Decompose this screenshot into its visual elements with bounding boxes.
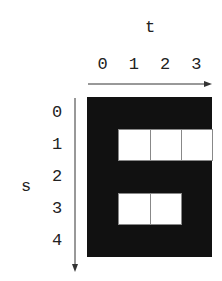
cell-s1-t3 <box>181 129 213 161</box>
grid <box>87 97 212 257</box>
t-axis-label: t <box>140 19 160 36</box>
cell-s1-t1 <box>118 129 150 161</box>
cell-s1-t2 <box>150 129 182 161</box>
cell-s3-t1 <box>118 193 150 225</box>
s-tick-0: 0 <box>47 104 67 121</box>
t-tick-2: 2 <box>155 56 175 73</box>
cell-s3-t2 <box>150 193 182 225</box>
s-tick-2: 2 <box>47 168 67 185</box>
t-tick-3: 3 <box>186 56 206 73</box>
s-tick-3: 3 <box>47 200 67 217</box>
t-tick-0: 0 <box>93 56 113 73</box>
s-tick-4: 4 <box>47 232 67 249</box>
t-tick-1: 1 <box>124 56 144 73</box>
s-axis-label: s <box>16 178 36 195</box>
s-tick-1: 1 <box>47 136 67 153</box>
